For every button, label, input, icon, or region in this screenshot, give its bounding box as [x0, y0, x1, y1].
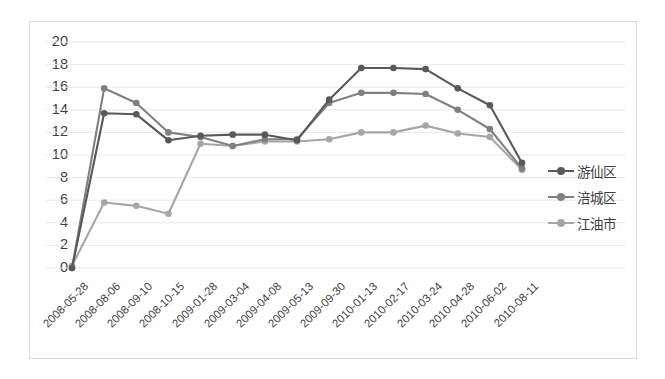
legend-dot — [557, 167, 565, 175]
chart-legend: 游仙区涪城区江油市 — [548, 158, 632, 236]
y-axis-tick-label: 16 — [34, 79, 68, 94]
legend-marker-icon — [548, 191, 574, 203]
y-axis-tick-label: 18 — [34, 57, 68, 72]
y-axis-tick-label: 20 — [34, 34, 68, 49]
y-axis-tick-label: 10 — [34, 147, 68, 162]
legend-item-0[interactable]: 游仙区 — [548, 158, 632, 184]
y-axis-tick-label: 4 — [34, 215, 68, 230]
legend-item-2[interactable]: 江油市 — [548, 210, 632, 236]
legend-marker-icon — [548, 217, 574, 229]
y-axis-tick-label: 8 — [34, 170, 68, 185]
legend-label: 游仙区 — [574, 161, 616, 181]
legend-dot — [557, 219, 565, 227]
legend-label: 江油市 — [574, 213, 616, 233]
y-axis-tick-label: 6 — [34, 192, 68, 207]
legend-label: 涪城区 — [574, 187, 616, 207]
legend-marker-icon — [548, 165, 574, 177]
y-axis-tick-label: 12 — [34, 124, 68, 139]
legend-item-1[interactable]: 涪城区 — [548, 184, 632, 210]
y-axis-tick-label: 2 — [34, 237, 68, 252]
y-axis-tick-label: 0 — [34, 260, 68, 275]
legend-dot — [557, 193, 565, 201]
y-axis-tick-label: 14 — [34, 102, 68, 117]
